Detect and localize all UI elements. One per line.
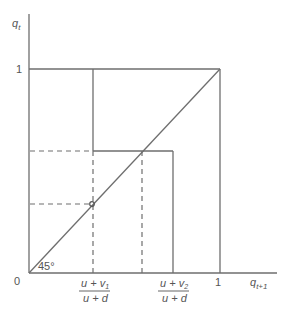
x-tick-fraction-v1: u + v1 u + d (79, 277, 110, 304)
svg-text:u + v2: u + v2 (160, 277, 188, 290)
svg-text:u + d: u + d (162, 292, 188, 304)
y-tick-one: 1 (16, 63, 22, 75)
svg-text:u + v1: u + v1 (81, 277, 109, 290)
x-axis-label: qt+1 (250, 276, 267, 291)
x-tick-fraction-v2: u + v2 u + d (158, 277, 189, 304)
y-axis-label: qt (12, 17, 21, 32)
diagonal-45-line (29, 69, 220, 273)
x-tick-one: 1 (215, 276, 221, 288)
svg-text:u + d: u + d (83, 292, 109, 304)
origin-label: 0 (14, 275, 20, 287)
angle-label: 45° (38, 260, 55, 272)
diagram-canvas: qt 1 0 45° 1 qt+1 u + v1 u + d u + v2 u … (0, 0, 293, 317)
